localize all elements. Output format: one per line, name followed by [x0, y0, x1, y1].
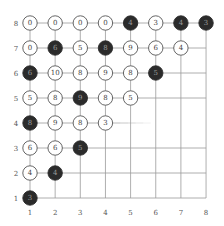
nodes: 0000434306589646108985589858983665443: [23, 16, 213, 205]
col-labels: 12345678: [28, 209, 209, 217]
dark-node[interactable]: 6: [48, 41, 62, 55]
node-value: 4: [128, 19, 133, 27]
dark-node[interactable]: 8: [23, 116, 37, 130]
node-value: 3: [154, 19, 158, 27]
dark-node[interactable]: 4: [48, 166, 62, 180]
node-value: 8: [128, 69, 132, 77]
light-node[interactable]: 5: [73, 41, 87, 55]
row-label: 3: [14, 145, 18, 153]
dark-node[interactable]: 5: [73, 141, 87, 155]
dark-node[interactable]: 6: [23, 66, 37, 80]
node-value: 3: [28, 194, 32, 202]
light-node[interactable]: 5: [23, 91, 37, 105]
col-label: 6: [154, 209, 159, 217]
light-node[interactable]: 4: [23, 166, 37, 180]
node-value: 0: [28, 19, 32, 27]
light-node[interactable]: 6: [23, 141, 37, 155]
light-node[interactable]: 8: [123, 66, 137, 80]
node-value: 5: [28, 94, 32, 102]
node-value: 4: [28, 169, 33, 177]
row-label: 6: [14, 70, 19, 78]
light-node[interactable]: 6: [48, 141, 62, 155]
node-value: 10: [51, 69, 60, 77]
dark-node[interactable]: 9: [73, 91, 87, 105]
col-label: 2: [53, 209, 57, 217]
node-value: 4: [179, 19, 184, 27]
light-node[interactable]: 0: [48, 16, 62, 30]
node-value: 9: [78, 94, 82, 102]
node-value: 5: [78, 144, 82, 152]
node-value: 0: [78, 19, 82, 27]
dark-node[interactable]: 3: [23, 191, 37, 205]
node-value: 4: [179, 44, 184, 52]
row-labels: 12345678: [14, 20, 19, 203]
col-label: 4: [103, 209, 108, 217]
row-label: 5: [14, 95, 18, 103]
node-value: 9: [103, 69, 107, 77]
light-node[interactable]: 8: [98, 91, 112, 105]
col-label: 7: [179, 209, 183, 217]
light-node[interactable]: 8: [73, 116, 87, 130]
light-node[interactable]: 3: [149, 16, 163, 30]
light-node[interactable]: 0: [23, 41, 37, 55]
light-node[interactable]: 0: [73, 16, 87, 30]
row-label: 8: [14, 20, 18, 28]
node-value: 5: [128, 94, 132, 102]
light-node[interactable]: 8: [48, 91, 62, 105]
node-value: 8: [78, 119, 82, 127]
light-node[interactable]: 0: [98, 16, 112, 30]
light-node[interactable]: 3: [98, 116, 112, 130]
node-value: 9: [53, 119, 57, 127]
node-value: 0: [28, 44, 32, 52]
node-value: 9: [128, 44, 132, 52]
node-value: 8: [78, 69, 82, 77]
col-label: 1: [28, 209, 32, 217]
node-value: 8: [28, 119, 32, 127]
node-value: 3: [103, 119, 107, 127]
node-value: 4: [53, 169, 58, 177]
light-node[interactable]: 10: [48, 66, 62, 80]
light-node[interactable]: 4: [174, 41, 188, 55]
col-label: 5: [128, 209, 132, 217]
node-value: 5: [78, 44, 82, 52]
node-value: 3: [204, 19, 208, 27]
node-value: 6: [53, 44, 58, 52]
light-node[interactable]: 8: [73, 66, 87, 80]
row-label: 7: [14, 45, 18, 53]
dark-node[interactable]: 4: [123, 16, 137, 30]
light-node[interactable]: 5: [123, 91, 137, 105]
col-label: 3: [78, 209, 82, 217]
col-label: 8: [204, 209, 208, 217]
node-value: 0: [103, 19, 107, 27]
light-node[interactable]: 6: [149, 41, 163, 55]
light-node[interactable]: 9: [98, 66, 112, 80]
node-value: 6: [154, 44, 159, 52]
dark-node[interactable]: 8: [98, 41, 112, 55]
node-value: 8: [53, 94, 57, 102]
row-label: 2: [14, 170, 18, 178]
node-value: 6: [28, 69, 33, 77]
light-node[interactable]: 9: [123, 41, 137, 55]
node-value: 8: [103, 44, 107, 52]
node-value: 6: [53, 144, 58, 152]
node-value: 5: [154, 69, 158, 77]
dark-node[interactable]: 3: [199, 16, 213, 30]
light-node[interactable]: 9: [48, 116, 62, 130]
game-board: 12345678 12345678 0000434306589646108985…: [0, 0, 224, 226]
row-label: 1: [14, 195, 18, 203]
dark-node[interactable]: 5: [149, 66, 163, 80]
dark-node[interactable]: 4: [174, 16, 188, 30]
node-value: 8: [103, 94, 107, 102]
light-node[interactable]: 0: [23, 16, 37, 30]
node-value: 0: [53, 19, 57, 27]
node-value: 6: [28, 144, 33, 152]
row-label: 4: [14, 120, 19, 128]
